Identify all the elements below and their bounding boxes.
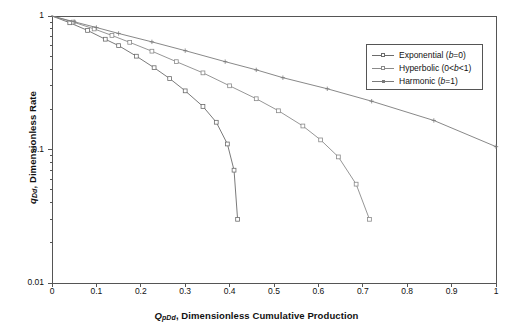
legend-swatch-icon [372,77,394,86]
x-tick-label: 0.8 [387,286,427,296]
x-tick-label: 0.5 [254,286,294,296]
legend-label: Harmonic (b=1) [399,76,458,87]
y-axis-title: qDd, Dimensionless Rate [27,28,38,268]
y-tick-label: 1 [4,10,44,20]
series-0 [52,16,239,221]
x-tick-label: 0.6 [298,286,338,296]
x-axis-title: QpDd, Dimensionless Cumulative Productio… [0,310,513,321]
decline-curve-figure: 00.10.20.30.40.50.60.70.80.91 10.10.01 Q… [0,0,513,333]
x-tick-label: 0.1 [76,286,116,296]
y-tick-label: 0.01 [4,277,44,287]
series-1 [52,16,371,221]
legend-swatch-icon [372,51,394,60]
legend-item-0[interactable]: Exponential (b=0) [367,49,482,62]
legend-swatch-icon [372,64,394,73]
legend-item-1[interactable]: Hyperbolic (0<b<1) [367,62,482,75]
x-tick-label: 0.2 [121,286,161,296]
legend-label: Exponential (b=0) [399,50,466,61]
x-tick-label: 1 [476,286,513,296]
x-tick-label: 0 [32,286,72,296]
y-tick-label: 0.1 [4,144,44,154]
legend-item-2[interactable]: Harmonic (b=1) [367,75,482,88]
x-tick-label: 0.4 [210,286,250,296]
x-tick-label: 0.3 [165,286,205,296]
x-tick-label: 0.7 [343,286,383,296]
chart-legend: Exponential (b=0)Hyperbolic (0<b<1)Harmo… [366,44,483,90]
legend-label: Hyperbolic (0<b<1) [399,63,471,74]
x-tick-label: 0.9 [432,286,472,296]
